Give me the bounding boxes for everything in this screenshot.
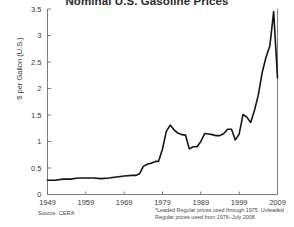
x-tick-label: 1989 [192, 198, 209, 207]
x-tick-labels: 1949195919691979198919992009 [39, 198, 286, 207]
y-tick-label: 1 [37, 137, 41, 146]
x-tick-label: 1959 [77, 198, 94, 207]
footnote-line-2: Regular prices used from 1976–July 2008. [155, 214, 294, 221]
x-tick-label: 1979 [154, 198, 171, 207]
y-tick-label: 1.5 [31, 111, 41, 120]
y-tick-label: 3 [37, 31, 41, 40]
source-note: Source: CERA [38, 210, 74, 216]
plot-area: 00.511.522.533.5 19491959196919791989199… [0, 0, 294, 227]
y-tick-labels: 00.511.522.533.5 [31, 5, 41, 200]
data-series-line [48, 12, 278, 181]
chart-figure: Nominal U.S. Gasoline Prices $ per Gallo… [0, 0, 294, 227]
x-tick-label: 2009 [269, 198, 286, 207]
y-tick-label: 3.5 [31, 5, 41, 14]
x-tick-label: 1969 [116, 198, 133, 207]
x-tick-label: 1949 [39, 198, 56, 207]
footnote-line-1: *Leaded Regular prices used through 1975… [155, 207, 294, 214]
y-tick-label: 0.5 [31, 164, 41, 173]
y-tick-marks [48, 9, 52, 168]
x-tick-label: 1999 [231, 198, 248, 207]
y-tick-label: 2.5 [31, 58, 41, 67]
y-tick-label: 2 [37, 84, 41, 93]
footnote: *Leaded Regular prices used through 1975… [155, 207, 294, 222]
